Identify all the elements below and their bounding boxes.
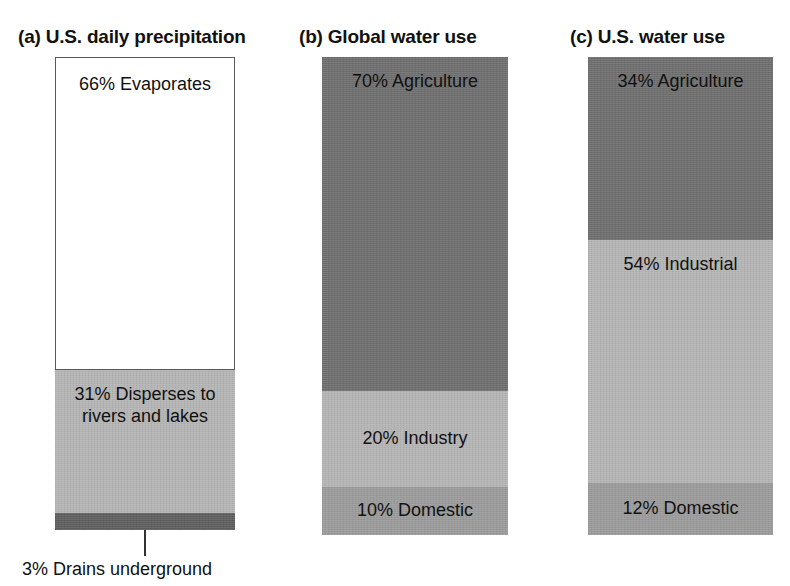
panel-a-bar: 66% Evaporates 31% Disperses to rivers a… (55, 57, 235, 530)
panel-a-title: (a) U.S. daily precipitation (18, 26, 246, 48)
panel-a-segment-disperses[interactable]: 31% Disperses to rivers and lakes (55, 370, 235, 513)
panel-b-segment-agriculture[interactable]: 70% Agriculture (322, 57, 508, 391)
panel-a-segment-disperses-label: 31% Disperses to rivers and lakes (70, 384, 219, 428)
panel-a-segment-evaporates[interactable]: 66% Evaporates (55, 57, 235, 370)
panel-b-segment-industry-label: 20% Industry (358, 428, 471, 450)
panel-c-title: (c) U.S. water use (570, 26, 725, 48)
panel-c-segment-agriculture-label: 34% Agriculture (613, 71, 747, 93)
panel-b-segment-domestic[interactable]: 10% Domestic (322, 487, 508, 535)
panel-c-segment-domestic-label: 12% Domestic (618, 498, 742, 520)
stacked-bar-figure: (a) U.S. daily precipitation 66% Evapora… (0, 0, 790, 586)
panel-c-segment-agriculture[interactable]: 34% Agriculture (588, 57, 773, 240)
panel-b-segment-agriculture-label: 70% Agriculture (348, 71, 482, 93)
panel-a-texture-drains (55, 513, 235, 530)
panel-b-global-water-use: (b) Global water use 70% Agriculture 20%… (280, 0, 528, 586)
panel-b-segment-domestic-label: 10% Domestic (353, 500, 477, 522)
panel-a-callout-leader-line (144, 530, 146, 556)
panel-a-us-daily-precipitation: (a) U.S. daily precipitation 66% Evapora… (0, 0, 280, 586)
panel-b-bar: 70% Agriculture 20% Industry 10% Domesti… (322, 57, 508, 535)
panel-c-segment-industrial[interactable]: 54% Industrial (588, 240, 773, 483)
panel-c-bar: 34% Agriculture 54% Industrial 12% Domes… (588, 57, 773, 535)
panel-b-segment-industry[interactable]: 20% Industry (322, 391, 508, 487)
panel-c-us-water-use: (c) U.S. water use 34% Agriculture 54% I… (528, 0, 790, 586)
panel-a-segment-evaporates-label: 66% Evaporates (75, 74, 215, 96)
panel-b-texture-agriculture (322, 57, 508, 391)
panel-b-title: (b) Global water use (299, 26, 477, 48)
panel-c-segment-industrial-label: 54% Industrial (619, 254, 741, 276)
panel-c-segment-domestic[interactable]: 12% Domestic (588, 483, 773, 535)
panel-c-texture-industrial (588, 240, 773, 483)
panel-a-callout-label: 3% Drains underground (22, 559, 212, 580)
panel-a-segment-drains-underground[interactable] (55, 513, 235, 530)
